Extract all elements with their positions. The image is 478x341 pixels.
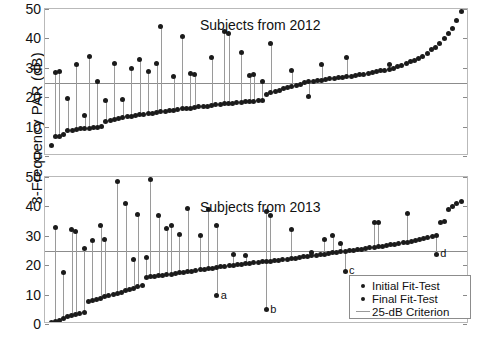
- data-point-final: [446, 31, 451, 36]
- y-tick-mark: [463, 324, 467, 325]
- data-point-initial: [102, 237, 107, 242]
- data-point-final: [434, 233, 439, 238]
- data-point-final: [260, 98, 265, 103]
- connector-stem: [270, 215, 271, 261]
- connector-stem: [266, 212, 267, 262]
- data-point-initial: [103, 98, 108, 103]
- data-point-annotated: [343, 269, 348, 274]
- data-point-initial: [61, 270, 66, 275]
- y-tick-mark: [45, 38, 49, 39]
- data-point-initial: [185, 206, 190, 211]
- data-point-initial: [177, 232, 182, 237]
- y-tick-label: 50: [7, 170, 41, 184]
- connector-stem: [159, 216, 160, 276]
- data-point-initial: [98, 223, 103, 228]
- connector-stem: [200, 235, 201, 270]
- data-point-initial: [344, 55, 349, 60]
- y-tick-label: 40: [7, 31, 41, 45]
- y-tick-label: 50: [7, 2, 41, 16]
- data-point-initial: [87, 54, 92, 59]
- data-point-initial: [338, 241, 343, 246]
- connector-stem: [217, 226, 218, 268]
- y-tick-label: 40: [7, 199, 41, 213]
- legend-item-final: Final Fit-Test: [354, 292, 466, 305]
- y-tick-mark: [45, 97, 49, 98]
- connector-stem: [55, 228, 56, 322]
- legend-line-icon: [354, 311, 372, 312]
- y-tick-mark: [45, 236, 49, 237]
- y-tick-mark: [463, 38, 467, 39]
- data-point-initial: [137, 57, 142, 62]
- connector-stem: [208, 209, 209, 268]
- legend-item-initial: Initial Fit-Test: [354, 279, 466, 292]
- data-point-initial: [180, 34, 185, 39]
- data-point-initial: [214, 223, 219, 228]
- y-tick-mark: [45, 127, 49, 128]
- annotation-label-b: b: [270, 303, 276, 315]
- y-tick-mark: [45, 9, 49, 10]
- connector-stem: [157, 63, 158, 112]
- data-point-initial: [90, 238, 95, 243]
- data-point-initial: [289, 68, 294, 73]
- data-point-initial: [243, 253, 248, 258]
- y-tick-label: 20: [7, 258, 41, 272]
- connector-stem: [250, 75, 251, 101]
- data-point-initial: [115, 179, 120, 184]
- data-point-annotated: [434, 252, 439, 257]
- data-point-initial: [209, 55, 214, 60]
- data-point-initial: [148, 177, 153, 182]
- data-point-initial: [319, 62, 324, 67]
- data-point-initial: [129, 66, 134, 71]
- figure-root: 3-Frequency PAR (dB) Subjects from 2012 …: [0, 0, 478, 341]
- data-point-final: [140, 283, 145, 288]
- data-point-initial: [82, 246, 87, 251]
- connector-stem: [68, 98, 69, 130]
- connector-stem: [212, 58, 213, 106]
- criterion-line: [45, 251, 467, 252]
- connector-stem: [182, 36, 183, 109]
- data-point-initial: [131, 257, 136, 262]
- connector-stem: [378, 222, 379, 246]
- legend-dot-icon: [354, 297, 372, 301]
- y-tick-label: 0: [7, 149, 41, 163]
- panel-subjects-2012: Subjects from 2012 01020304050: [44, 8, 468, 155]
- connector-stem: [89, 56, 90, 128]
- data-point-initial: [268, 41, 273, 46]
- connector-stem: [134, 259, 135, 288]
- connector-stem: [195, 74, 196, 107]
- data-point-initial: [251, 72, 256, 77]
- y-tick-label: 30: [7, 229, 41, 243]
- connector-stem: [224, 32, 225, 104]
- y-tick-mark: [463, 127, 467, 128]
- connector-stem: [76, 64, 77, 129]
- data-point-initial: [169, 223, 174, 228]
- data-point-initial: [95, 79, 100, 84]
- data-point-initial: [156, 213, 161, 218]
- y-tick-mark: [45, 206, 49, 207]
- data-point-initial: [144, 255, 149, 260]
- y-tick-label: 0: [7, 317, 41, 331]
- y-tick-label: 10: [7, 288, 41, 302]
- connector-stem: [374, 222, 375, 247]
- connector-stem: [254, 75, 255, 101]
- connector-stem: [291, 229, 292, 258]
- connector-stem: [114, 64, 115, 120]
- connector-stem: [105, 240, 106, 297]
- connector-stem: [148, 71, 149, 113]
- connector-stem: [174, 77, 175, 111]
- connector-stem: [190, 74, 191, 108]
- data-point-initial: [135, 212, 140, 217]
- data-point-final: [442, 219, 447, 224]
- data-point-initial: [73, 229, 78, 234]
- data-point-final: [49, 143, 54, 148]
- y-tick-mark: [463, 156, 467, 157]
- data-point-initial: [231, 252, 236, 257]
- connector-stem: [59, 72, 60, 137]
- connector-stem: [140, 60, 141, 115]
- y-tick-mark: [45, 177, 49, 178]
- y-tick-label: 10: [7, 120, 41, 134]
- connector-stem: [55, 73, 56, 137]
- data-point-initial: [405, 211, 410, 216]
- y-tick-mark: [45, 295, 49, 296]
- y-tick-mark: [463, 97, 467, 98]
